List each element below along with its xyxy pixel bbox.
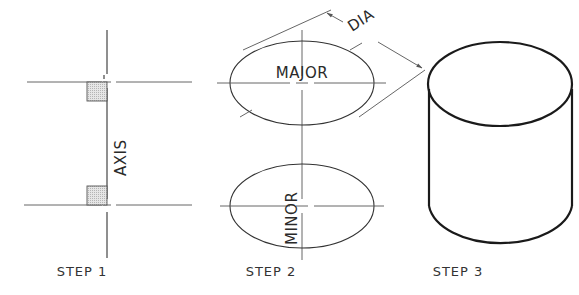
step-3-label: STEP 3 xyxy=(433,264,484,279)
cylinder-bottom-arc xyxy=(429,206,572,243)
dia-extension-line-left xyxy=(243,10,331,50)
isometric-cylinder-diagram: AXIS MAJOR DIA MINOR STEP 1 STEP 2 STEP … xyxy=(0,0,579,295)
dia-dimension-arrow-right xyxy=(378,42,422,68)
step-2-ellipse-construction: MAJOR DIA MINOR xyxy=(217,5,425,260)
step-1-label: STEP 1 xyxy=(57,264,108,279)
dia-label: DIA xyxy=(344,5,377,35)
step-2-label: STEP 2 xyxy=(246,264,297,279)
dia-dimension-arrow-left xyxy=(327,13,343,22)
tangent-tick-right xyxy=(350,43,362,50)
right-angle-marker-bottom xyxy=(87,186,107,205)
minor-label: MINOR xyxy=(283,192,301,245)
right-angle-marker-top xyxy=(87,82,107,101)
cylinder-top-ellipse xyxy=(428,42,572,126)
step-3-cylinder xyxy=(428,42,572,243)
axis-label: AXIS xyxy=(112,140,130,176)
major-label: MAJOR xyxy=(276,64,328,82)
step-1-axis-construction: AXIS xyxy=(24,30,192,258)
tangent-tick-left xyxy=(240,110,252,117)
dia-extension-line-right xyxy=(359,70,425,117)
